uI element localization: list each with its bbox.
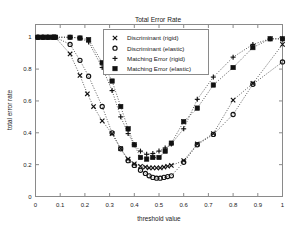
x-tick-label: 0.5 [155, 202, 164, 208]
y-axis-label: total error rate [6, 89, 13, 130]
square-marker-icon [110, 79, 114, 83]
square-marker-icon [119, 104, 123, 108]
square-marker-icon [53, 35, 57, 39]
chart-figure: Total Error Rate 00.10.20.30.40.50.60.70… [0, 0, 301, 241]
x-marker-icon [100, 119, 104, 123]
y-tick-label: 0 [28, 194, 32, 200]
legend-label: Matching Error (rigid) [127, 55, 185, 62]
x-tick-label: 0 [34, 202, 38, 208]
total-error-rate-chart: Total Error Rate 00.10.20.30.40.50.60.70… [0, 0, 301, 241]
square-marker-icon [46, 35, 50, 39]
square-marker-icon [157, 155, 161, 159]
y-tick-label: 0.2 [23, 162, 32, 168]
circle-marker-icon [100, 104, 104, 108]
x-tick-label: 0.4 [130, 202, 139, 208]
plus-marker-icon [144, 152, 149, 157]
x-marker-icon [143, 165, 147, 169]
x-tick-label: 0.8 [229, 202, 238, 208]
square-marker-icon [41, 35, 45, 39]
x-tick-label: 0.3 [105, 202, 114, 208]
x-marker-icon [91, 104, 95, 108]
x-tick-label: 0.2 [81, 202, 90, 208]
legend-label: Discriminant (elastic) [127, 45, 184, 52]
square-marker-icon [68, 35, 72, 39]
legend-label: Discriminant (rigid) [127, 34, 179, 41]
square-marker-icon [231, 65, 235, 69]
x-tick-label: 0.1 [56, 202, 65, 208]
x-marker-icon [85, 92, 89, 96]
square-marker-icon [144, 157, 148, 161]
square-marker-icon [113, 66, 117, 70]
plus-marker-icon [157, 149, 162, 154]
circle-marker-icon [68, 42, 72, 46]
square-marker-icon [280, 37, 284, 41]
circle-marker-icon [231, 112, 235, 116]
x-axis-label: threshold value [137, 215, 181, 222]
square-marker-icon [251, 45, 255, 49]
y-tick-label: 0.4 [23, 130, 32, 136]
x-tick-label: 0.7 [204, 202, 213, 208]
square-marker-icon [138, 155, 142, 159]
y-tick-label: 1 [28, 34, 32, 40]
x-marker-icon [78, 73, 82, 77]
x-marker-icon [68, 52, 72, 56]
x-tick-label: 0.6 [180, 202, 189, 208]
plus-marker-icon [118, 114, 123, 119]
square-marker-icon [163, 149, 167, 153]
plus-marker-icon [138, 149, 143, 154]
chart-title: Total Error Rate [135, 16, 182, 23]
y-tick-label: 0.6 [23, 98, 32, 104]
square-marker-icon [268, 37, 272, 41]
x-marker-icon [169, 163, 173, 167]
square-marker-icon [36, 35, 40, 39]
square-marker-icon [132, 143, 136, 147]
plus-marker-icon [110, 88, 115, 93]
square-marker-icon [182, 119, 186, 123]
x-tick-label: 0.9 [254, 202, 263, 208]
square-marker-icon [195, 106, 199, 110]
square-marker-icon [78, 36, 82, 40]
x-marker-icon [162, 165, 166, 169]
chart-legend: Discriminant (rigid)Discriminant (elasti… [104, 30, 209, 75]
square-marker-icon [211, 83, 215, 87]
plus-marker-icon [195, 97, 200, 102]
square-marker-icon [86, 37, 90, 41]
x-tick-label: 1 [281, 202, 285, 208]
y-tick-label: 0.8 [23, 66, 32, 72]
x-marker-icon [231, 98, 235, 102]
square-marker-icon [151, 155, 155, 159]
square-marker-icon [169, 141, 173, 145]
square-marker-icon [126, 127, 130, 131]
legend-label: Matching Error (elastic) [127, 65, 191, 72]
